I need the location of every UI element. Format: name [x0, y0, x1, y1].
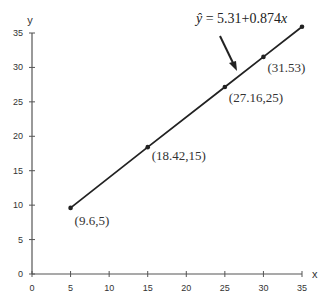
- y-axis-label: y: [27, 14, 33, 26]
- arrow-head-icon: [229, 61, 237, 71]
- point-annotations: (9.6,5)(18.42,15)(27.16,25)(31.53): [75, 60, 306, 228]
- x-tick-label: 10: [104, 283, 114, 293]
- series-line: [68, 25, 304, 211]
- data-point: [300, 25, 305, 30]
- x-tick-label: 5: [68, 283, 73, 293]
- regression-chart: xy 0510152025303505101520253035 (9.6,5)(…: [0, 0, 328, 306]
- x-tick-label: 15: [143, 283, 153, 293]
- data-point: [223, 85, 228, 90]
- x-tick-label: 35: [297, 283, 307, 293]
- x-axis-label: x: [312, 268, 318, 280]
- x-tick-label: 0: [29, 283, 34, 293]
- regression-equation: ŷ = 5.31+0.874x: [194, 11, 288, 26]
- y-tick-label: 35: [13, 28, 23, 38]
- x-tick-label: 20: [181, 283, 191, 293]
- data-point: [68, 206, 73, 211]
- x-tick-label: 30: [258, 283, 268, 293]
- y-tick-label: 25: [13, 97, 23, 107]
- y-tick-label: 15: [13, 166, 23, 176]
- point-label: (31.53): [267, 60, 305, 75]
- y-tick-label: 20: [13, 131, 23, 141]
- y-tick-label: 5: [18, 235, 23, 245]
- regression-line: [71, 27, 302, 208]
- point-label: (18.42,15): [152, 148, 206, 163]
- point-label: (9.6,5): [75, 213, 110, 228]
- point-label: (27.16,25): [229, 90, 283, 105]
- data-point: [261, 55, 266, 60]
- axes: xy: [27, 14, 318, 280]
- y-tick-label: 0: [18, 269, 23, 279]
- y-tick-label: 30: [13, 62, 23, 72]
- arrow-shaft: [220, 36, 234, 65]
- x-tick-label: 25: [220, 283, 230, 293]
- data-point: [145, 145, 150, 150]
- y-tick-label: 10: [13, 200, 23, 210]
